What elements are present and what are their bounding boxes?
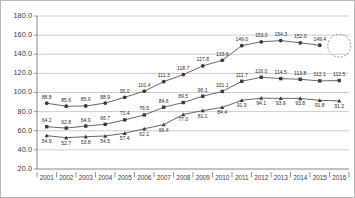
data-point-circle[interactable] bbox=[84, 104, 88, 108]
data-point-square[interactable] bbox=[338, 79, 341, 82]
data-label: 77.0 bbox=[178, 116, 188, 122]
data-label: 91.9 bbox=[237, 102, 247, 108]
data-point-circle[interactable] bbox=[181, 73, 185, 77]
data-point-square[interactable] bbox=[162, 106, 165, 109]
data-label: 154.3 bbox=[274, 31, 287, 37]
data-label: 95.0 bbox=[120, 88, 130, 94]
data-label: 127.8 bbox=[196, 56, 209, 62]
data-label: 112.1 bbox=[314, 71, 327, 77]
y-axis-label: 140.0 bbox=[14, 49, 33, 58]
x-axis-label: 2016 bbox=[332, 174, 347, 181]
data-label: 71.4 bbox=[120, 110, 130, 116]
data-point-square[interactable] bbox=[201, 95, 204, 98]
data-point-circle[interactable] bbox=[45, 101, 49, 105]
data-point-circle[interactable] bbox=[298, 41, 302, 45]
line-chart-plot: 20.040.060.080.0100.0120.0140.0160.0180.… bbox=[1, 1, 355, 198]
x-axis-label: 2001 bbox=[40, 174, 55, 181]
data-point-square[interactable] bbox=[104, 123, 107, 126]
data-point-square[interactable] bbox=[299, 78, 302, 81]
data-label: 85.6 bbox=[61, 97, 71, 103]
data-point-square[interactable] bbox=[240, 80, 243, 83]
data-point-circle[interactable] bbox=[142, 89, 146, 93]
data-label: 91.8 bbox=[315, 102, 325, 108]
data-point-square[interactable] bbox=[221, 90, 224, 93]
data-label: 93.9 bbox=[276, 100, 286, 106]
data-label: 88.8 bbox=[42, 94, 52, 100]
data-label: 52.7 bbox=[61, 140, 71, 146]
data-label: 101.4 bbox=[138, 82, 151, 88]
data-label: 113.8 bbox=[294, 70, 307, 76]
data-point-square[interactable] bbox=[318, 79, 321, 82]
x-axis-label: 2005 bbox=[118, 174, 133, 181]
y-axis-label: 80.0 bbox=[18, 107, 32, 116]
x-axis-label: 2015 bbox=[313, 174, 328, 181]
data-label: 84.4 bbox=[217, 109, 227, 115]
data-label: 111.3 bbox=[158, 72, 170, 78]
data-label: 133.6 bbox=[216, 51, 229, 57]
data-label: 76.5 bbox=[139, 105, 149, 111]
data-label: 62.8 bbox=[61, 119, 71, 125]
data-label: 54.5 bbox=[100, 138, 110, 144]
data-point-circle[interactable] bbox=[220, 58, 224, 62]
x-axis-label: 2004 bbox=[98, 174, 113, 181]
data-point-square[interactable] bbox=[279, 77, 282, 80]
data-label: 57.4 bbox=[120, 135, 130, 141]
y-axis-label: 120.0 bbox=[14, 68, 33, 77]
data-label: 149.0 bbox=[235, 36, 248, 42]
data-point-triangle[interactable] bbox=[162, 123, 166, 127]
data-point-square[interactable] bbox=[65, 126, 68, 129]
data-label: 81.1 bbox=[198, 113, 208, 119]
data-label: 64.9 bbox=[81, 117, 91, 123]
data-label: 91.2 bbox=[334, 103, 344, 109]
data-label: 62.1 bbox=[139, 131, 149, 137]
data-label: 149.4 bbox=[313, 36, 326, 42]
data-point-circle[interactable] bbox=[103, 101, 107, 105]
chart-container: 20.040.060.080.0100.0120.0140.0160.0180.… bbox=[0, 0, 355, 198]
x-axis-label: 2007 bbox=[157, 174, 172, 181]
x-axis-label: 2012 bbox=[254, 174, 269, 181]
x-axis-label: 2002 bbox=[59, 174, 74, 181]
data-point-circle[interactable] bbox=[279, 39, 283, 43]
data-label: 93.8 bbox=[295, 100, 305, 106]
data-point-circle[interactable] bbox=[162, 80, 166, 84]
data-point-circle[interactable] bbox=[64, 104, 68, 108]
x-axis-label: 2008 bbox=[176, 174, 191, 181]
data-point-circle[interactable] bbox=[201, 64, 205, 68]
data-point-square[interactable] bbox=[260, 76, 263, 79]
data-label: 54.9 bbox=[42, 138, 52, 144]
data-label: 66.4 bbox=[159, 127, 169, 133]
data-label: 96.1 bbox=[198, 87, 208, 93]
data-label: 152.0 bbox=[294, 33, 307, 39]
y-axis-label: 40.0 bbox=[18, 145, 32, 154]
data-point-square[interactable] bbox=[143, 113, 146, 116]
data-label: 153.0 bbox=[255, 32, 268, 38]
data-point-circle[interactable] bbox=[318, 43, 322, 47]
data-label: 66.7 bbox=[100, 115, 110, 121]
y-axis-label: 100.0 bbox=[14, 87, 33, 96]
y-axis-label: 160.0 bbox=[14, 30, 33, 39]
x-axis-label: 2006 bbox=[137, 174, 152, 181]
y-axis-label: 180.0 bbox=[14, 11, 33, 20]
data-point-square[interactable] bbox=[84, 124, 87, 127]
highlight-circle-annotation bbox=[328, 34, 351, 57]
x-axis-label: 2013 bbox=[274, 174, 289, 181]
x-axis-label: 2014 bbox=[293, 174, 308, 181]
data-point-circle[interactable] bbox=[259, 40, 263, 44]
data-label: 116.0 bbox=[255, 68, 268, 74]
x-axis-label: 2010 bbox=[215, 174, 230, 181]
x-axis-label: 2003 bbox=[79, 174, 94, 181]
data-point-square[interactable] bbox=[182, 101, 185, 104]
data-label: 114.5 bbox=[275, 69, 288, 75]
data-label: 111.7 bbox=[236, 72, 248, 78]
data-point-circle[interactable] bbox=[123, 95, 127, 99]
data-label: 118.7 bbox=[177, 65, 190, 71]
y-axis-label: 20.0 bbox=[18, 164, 32, 173]
data-label: 112.5 bbox=[333, 71, 346, 77]
data-point-circle[interactable] bbox=[240, 44, 244, 48]
data-label: 88.9 bbox=[100, 94, 110, 100]
y-axis-label: 60.0 bbox=[18, 126, 32, 135]
data-point-square[interactable] bbox=[123, 118, 126, 121]
data-label: 94.1 bbox=[256, 100, 266, 106]
data-label: 53.8 bbox=[81, 139, 91, 145]
data-point-square[interactable] bbox=[45, 125, 48, 128]
